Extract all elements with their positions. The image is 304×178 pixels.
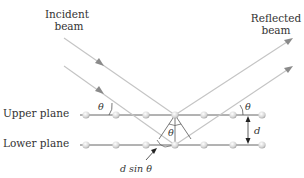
incident-beam-upper xyxy=(64,38,175,115)
theta-arc-right xyxy=(240,105,243,115)
theta-label-left: θ xyxy=(98,101,104,112)
reflected-beam-upper xyxy=(175,38,293,115)
d-spacing-arrow xyxy=(246,116,251,144)
bragg-diffraction-diagram: Incident beam Reflected beam Upper plane… xyxy=(0,0,304,178)
upper-plane-label: Upper plane xyxy=(3,107,69,119)
incident-beam-label: Incident xyxy=(45,8,90,20)
theta-label-right: θ xyxy=(245,101,251,112)
theta-label-center: θ xyxy=(168,127,174,138)
d-label: d xyxy=(254,125,260,136)
arrow-icon xyxy=(284,66,293,73)
d-sin-theta-label: d sin θ xyxy=(120,163,152,174)
reflected-beam-lower xyxy=(175,66,293,145)
incident-beam-label-2: beam xyxy=(54,20,83,32)
theta-arc-left xyxy=(109,103,112,115)
arrow-icon xyxy=(95,58,104,66)
incident-beam-lower xyxy=(64,66,175,145)
reflected-beam-label-2: beam xyxy=(261,24,290,36)
reflected-beam-label: Reflected xyxy=(251,12,302,24)
arrow-icon xyxy=(284,38,293,45)
d-sin-theta-pointer xyxy=(146,148,157,160)
arrow-icon xyxy=(95,86,104,94)
lower-plane-label: Lower plane xyxy=(3,137,69,149)
